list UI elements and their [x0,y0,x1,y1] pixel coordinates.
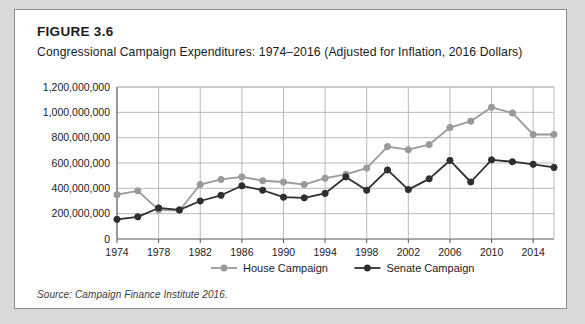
data-point-senate-campaign [426,176,432,182]
x-axis-label: 2010 [480,246,504,258]
y-axis-label: 200,000,000 [52,207,111,219]
data-point-house-campaign [135,188,141,194]
y-axis-label: 1,200,000,000 [43,81,110,93]
data-point-house-campaign [301,181,307,187]
data-point-house-campaign [530,131,536,137]
data-point-house-campaign [239,174,245,180]
data-point-senate-campaign [447,157,453,163]
data-point-house-campaign [426,142,432,148]
x-axis-label: 2014 [522,246,546,258]
y-axis-label: 400,000,000 [52,182,111,194]
data-point-house-campaign [364,165,370,171]
legend-label: House Campaign [243,262,328,274]
data-point-house-campaign [488,104,494,110]
source-note: Source: Campaign Finance Institute 2016. [37,289,228,300]
data-point-senate-campaign [322,190,328,196]
data-point-senate-campaign [530,161,536,167]
y-axis-label: 0 [104,233,110,245]
data-point-senate-campaign [156,205,162,211]
x-axis-label: 2002 [397,246,421,258]
data-point-senate-campaign [468,179,474,185]
data-point-house-campaign [551,131,557,137]
data-point-senate-campaign [114,216,120,222]
data-point-house-campaign [260,178,266,184]
data-point-senate-campaign [384,167,390,173]
y-axis-label: 800,000,000 [52,131,111,143]
line-chart: 0200,000,000400,000,000600,000,000800,00… [15,10,568,310]
x-axis-label: 1986 [230,246,254,258]
data-point-house-campaign [197,181,203,187]
x-axis-label: 1974 [105,246,129,258]
data-point-senate-campaign [197,198,203,204]
data-point-senate-campaign [176,207,182,213]
data-point-senate-campaign [260,187,266,193]
y-axis-label: 600,000,000 [52,157,111,169]
data-point-senate-campaign [301,195,307,201]
data-point-house-campaign [468,118,474,124]
data-point-senate-campaign [509,159,515,165]
legend-marker [221,265,228,272]
data-point-senate-campaign [135,214,141,220]
data-point-house-campaign [405,147,411,153]
data-point-house-campaign [509,110,515,116]
data-point-senate-campaign [364,187,370,193]
data-point-senate-campaign [405,187,411,193]
data-point-house-campaign [447,124,453,130]
data-point-senate-campaign [280,194,286,200]
x-axis-label: 1990 [272,246,296,258]
legend-marker [364,265,371,272]
x-axis-label: 1978 [147,246,171,258]
x-axis-label: 2006 [438,246,462,258]
data-point-senate-campaign [218,192,224,198]
data-point-house-campaign [384,143,390,149]
data-point-house-campaign [280,179,286,185]
x-axis-label: 1998 [355,246,379,258]
x-axis-label: 1994 [313,246,337,258]
legend-label: Senate Campaign [386,262,474,274]
data-point-house-campaign [218,176,224,182]
data-point-senate-campaign [551,164,557,170]
data-point-senate-campaign [239,183,245,189]
chart-plot-area: 0200,000,000400,000,000600,000,000800,00… [15,10,568,310]
data-point-senate-campaign [488,157,494,163]
data-point-house-campaign [322,175,328,181]
x-axis-label: 1982 [189,246,213,258]
data-point-house-campaign [114,192,120,198]
y-axis-label: 1,000,000,000 [43,106,110,118]
data-point-senate-campaign [343,174,349,180]
figure-panel: FIGURE 3.6 Congressional Campaign Expend… [14,9,567,309]
